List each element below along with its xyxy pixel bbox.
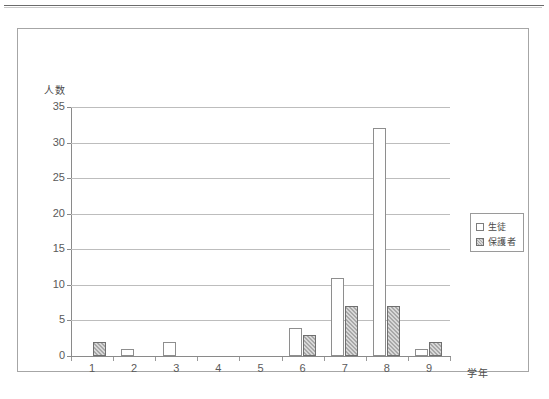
x-tick-label: 2 [114, 363, 154, 374]
x-tick-label: 8 [367, 363, 407, 374]
bar [415, 349, 428, 356]
y-tick-label: 35 [39, 101, 65, 112]
y-tick-label: 5 [39, 314, 65, 325]
y-axis-title: 人数 [44, 82, 65, 97]
gridline [71, 214, 450, 215]
gridline [71, 178, 450, 179]
x-tick-label: 1 [72, 363, 112, 374]
x-tick-label: 3 [156, 363, 196, 374]
x-tick-label: 4 [198, 363, 238, 374]
y-tick-label: 25 [39, 172, 65, 183]
y-tick-label: 30 [39, 137, 65, 148]
bar [121, 349, 134, 356]
x-tick-mark [71, 357, 72, 361]
x-tick-label: 6 [283, 363, 323, 374]
x-tick-label: 9 [409, 363, 449, 374]
x-tick-mark [113, 357, 114, 361]
x-tick-mark [155, 357, 156, 361]
bar [345, 306, 358, 356]
y-tick-label: 15 [39, 243, 65, 254]
x-tick-mark [197, 357, 198, 361]
x-tick-mark [282, 357, 283, 361]
bar [303, 335, 316, 356]
bar [331, 278, 344, 356]
chart-frame: 人数 学年 05101520253035 123456789 生徒保護者 [17, 28, 529, 372]
legend-label: 生徒 [488, 220, 507, 233]
bar [373, 128, 386, 356]
x-tick-mark [239, 357, 240, 361]
bar [429, 342, 442, 356]
x-axis-title: 学年 [467, 365, 488, 380]
x-axis-line [71, 356, 451, 357]
page-top-rule-shadow [4, 7, 542, 8]
gridline [71, 107, 450, 108]
x-tick-mark [408, 357, 409, 361]
bar [387, 306, 400, 356]
x-tick-mark [450, 357, 451, 361]
gridline [71, 249, 450, 250]
bar [163, 342, 176, 356]
y-tick-label: 0 [39, 350, 65, 361]
x-tick-mark [324, 357, 325, 361]
y-tick-label: 20 [39, 208, 65, 219]
legend-swatch-icon [476, 223, 484, 231]
x-tick-label: 5 [241, 363, 281, 374]
legend-swatch-icon [476, 238, 484, 246]
gridline [71, 143, 450, 144]
y-tick-label: 10 [39, 279, 65, 290]
legend-item: 保護者 [476, 235, 516, 248]
bar [93, 342, 106, 356]
bar [289, 328, 302, 356]
legend-item: 生徒 [476, 220, 507, 233]
x-tick-mark [366, 357, 367, 361]
x-tick-label: 7 [325, 363, 365, 374]
gridline [71, 285, 450, 286]
chart-legend: 生徒保護者 [470, 213, 524, 252]
plot-area [71, 107, 450, 356]
page-top-rule [4, 5, 544, 6]
legend-label: 保護者 [488, 235, 516, 248]
